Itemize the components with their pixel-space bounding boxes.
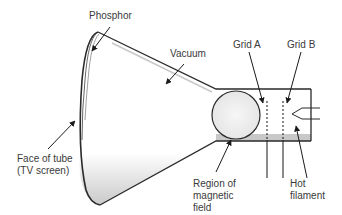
face-arrow <box>48 121 75 149</box>
label-face-line1: Face of tube <box>17 153 73 164</box>
crt-diagram: Phosphor Vacuum Grid A Grid B Face of tu… <box>0 0 342 215</box>
magnetic-field-arrow <box>216 140 231 172</box>
label-region-line3: field <box>193 202 211 213</box>
label-hot-line1: Hot <box>290 178 306 189</box>
label-region-line2: magnetic <box>193 190 234 201</box>
label-grid-a: Grid A <box>233 39 261 50</box>
label-face-line2: (TV screen) <box>17 165 69 176</box>
label-vacuum: Vacuum <box>170 48 206 59</box>
label-phosphor: Phosphor <box>89 10 132 21</box>
label-hot-line2: filament <box>290 190 325 201</box>
label-region-line1: Region of <box>193 178 236 189</box>
magnetic-field-region <box>212 91 260 139</box>
label-grid-b: Grid B <box>287 39 316 50</box>
